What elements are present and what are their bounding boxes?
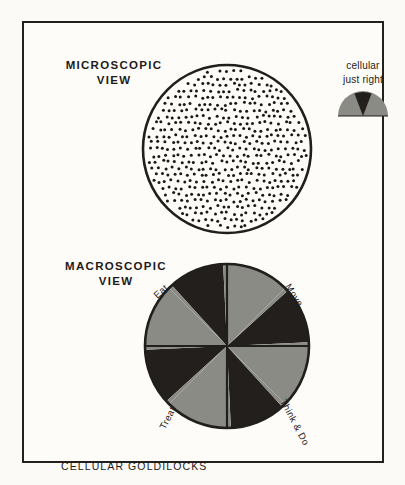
gauge-label-line-2: just right xyxy=(324,73,402,87)
poster-caption: CELLULAR GOLDILOCKS xyxy=(61,460,207,472)
gauge-label-line-1: cellular xyxy=(324,59,402,73)
dotted-circle-icon xyxy=(141,63,313,235)
cellular-gauge-legend: cellular just right xyxy=(324,59,402,117)
microscopic-circle-svg xyxy=(141,63,313,235)
poster-frame: MICROSCOPIC VIEW cellular just right MAC… xyxy=(22,21,384,463)
gauge-svg xyxy=(337,91,389,117)
poster-page: MICROSCOPIC VIEW cellular just right MAC… xyxy=(0,0,405,485)
gauge-semicircle-icon xyxy=(337,91,389,117)
